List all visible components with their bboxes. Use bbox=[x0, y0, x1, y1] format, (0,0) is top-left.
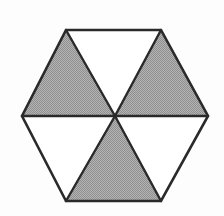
hexagon-figure bbox=[0, 0, 224, 216]
figure-canvas bbox=[0, 0, 224, 216]
